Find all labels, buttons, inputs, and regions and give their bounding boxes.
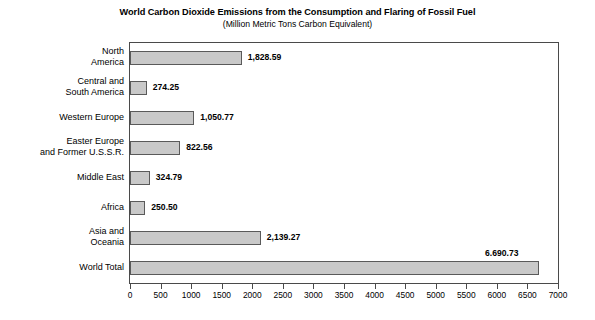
bar[interactable] <box>130 261 539 275</box>
x-axis-tick-label: 3000 <box>304 290 323 301</box>
bar-row: 250.50 <box>130 193 558 223</box>
bar[interactable] <box>130 81 147 95</box>
y-axis-label: North America <box>0 46 124 68</box>
bar-value-label: 250.50 <box>151 200 177 214</box>
title-block: World Carbon Dioxide Emissions from the … <box>0 6 595 30</box>
bar-row: 274.25 <box>130 73 558 103</box>
x-axis-tick <box>191 284 192 289</box>
bar-value-label: 274.25 <box>153 80 179 94</box>
x-axis: 0500100015002000250030003500400045005000… <box>129 284 559 314</box>
chart-subtitle: (Million Metric Tons Carbon Equivalent) <box>0 18 595 30</box>
x-axis-tick <box>222 284 223 289</box>
bar-row: 822.56 <box>130 133 558 163</box>
bar-row: 1,828.59 <box>130 43 558 73</box>
x-axis-tick <box>497 284 498 289</box>
x-axis-tick <box>558 284 559 289</box>
x-axis-tick <box>344 284 345 289</box>
x-axis-tick-label: 2500 <box>274 290 293 301</box>
bar-value-label: 1,828.59 <box>248 50 281 64</box>
x-axis-tick <box>283 284 284 289</box>
x-axis-tick-label: 2000 <box>243 290 262 301</box>
x-axis-tick <box>252 284 253 289</box>
y-axis-label: Western Europe <box>0 112 124 123</box>
x-axis-tick <box>436 284 437 289</box>
x-axis-tick-label: 5500 <box>457 290 476 301</box>
x-axis-tick <box>130 284 131 289</box>
x-axis-tick-label: 6500 <box>518 290 537 301</box>
x-axis-tick <box>375 284 376 289</box>
bar[interactable] <box>130 141 180 155</box>
x-axis-tick-label: 4000 <box>365 290 384 301</box>
y-axis-label: Asia and Oceania <box>0 226 124 248</box>
bar[interactable] <box>130 111 194 125</box>
x-axis-tick-label: 6000 <box>488 290 507 301</box>
x-axis-tick-label: 1500 <box>212 290 231 301</box>
x-axis-tick-label: 0 <box>128 290 133 301</box>
x-axis-tick-label: 500 <box>154 290 168 301</box>
bar-row: 324.79 <box>130 163 558 193</box>
y-axis-label: Easter Europe and Former U.S.S.R. <box>0 136 124 158</box>
x-axis-tick <box>313 284 314 289</box>
page-title: World Carbon Dioxide Emissions from the … <box>0 6 595 18</box>
bar[interactable] <box>130 171 150 185</box>
bar-value-label: 6.690.73 <box>485 246 518 260</box>
bar[interactable] <box>130 51 242 65</box>
bar-row: 6.690.73 <box>130 253 558 283</box>
x-axis-tick-label: 5000 <box>426 290 445 301</box>
x-axis-tick <box>527 284 528 289</box>
chart-page: World Carbon Dioxide Emissions from the … <box>0 0 595 320</box>
bar-value-label: 2,139.27 <box>267 230 300 244</box>
bar-row: 1,050.77 <box>130 103 558 133</box>
y-axis-label: Middle East <box>0 172 124 183</box>
plot-area: 1,828.59274.251,050.77822.56324.79250.50… <box>129 42 559 284</box>
bar[interactable] <box>130 231 261 245</box>
y-axis-label: Central and South America <box>0 76 124 98</box>
x-axis-tick-label: 1000 <box>182 290 201 301</box>
x-axis-tick-label: 7000 <box>549 290 568 301</box>
bar[interactable] <box>130 201 145 215</box>
bar-value-label: 1,050.77 <box>200 110 233 124</box>
y-axis-label: Africa <box>0 202 124 213</box>
x-axis-tick <box>405 284 406 289</box>
bar-value-label: 822.56 <box>186 140 212 154</box>
x-axis-tick <box>161 284 162 289</box>
x-axis-tick <box>466 284 467 289</box>
y-axis-label: World Total <box>0 262 124 273</box>
bar-value-label: 324.79 <box>156 170 182 184</box>
x-axis-tick-label: 3500 <box>335 290 354 301</box>
x-axis-tick-label: 4500 <box>396 290 415 301</box>
y-axis-category-labels: North AmericaCentral and South AmericaWe… <box>0 42 124 284</box>
